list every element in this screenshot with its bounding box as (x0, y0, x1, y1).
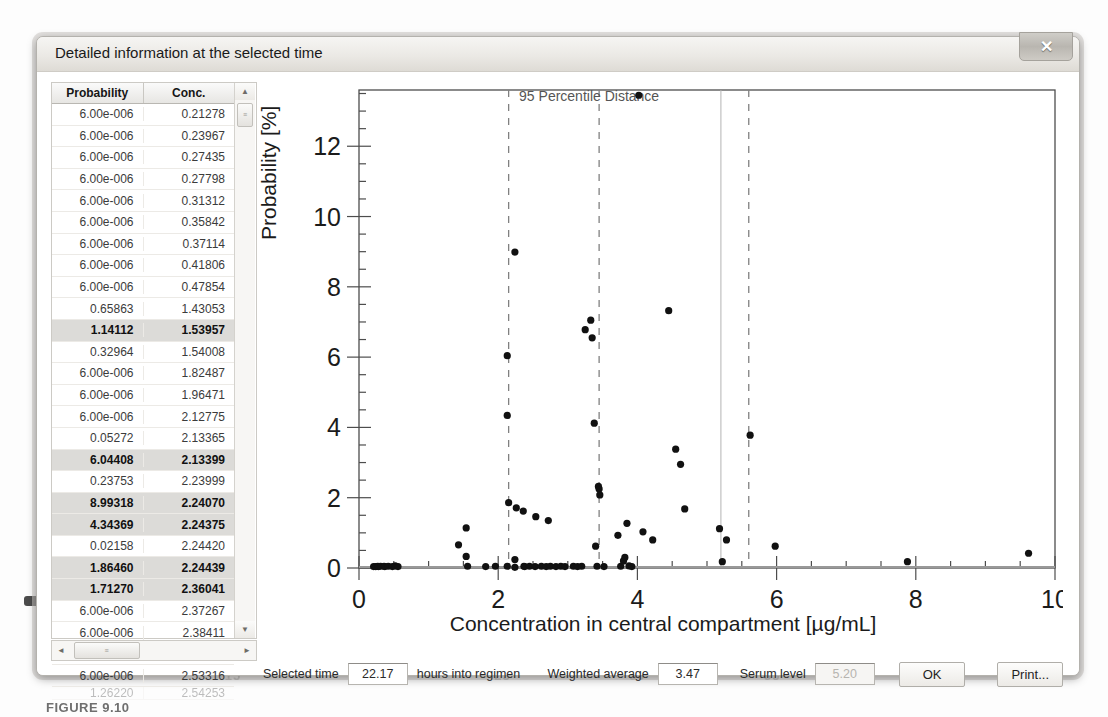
table-row[interactable]: 1.864602.24439 (52, 557, 234, 579)
cell-probability: 0.05272 (52, 431, 144, 445)
chart-plot-svg: 024681002468101295 Percentile Distance (263, 80, 1063, 610)
scatter-point (621, 554, 628, 561)
scroll-right-icon[interactable]: ► (238, 641, 256, 660)
cell-probability: 1.86460 (52, 561, 144, 575)
scatter-point (681, 505, 688, 512)
table-header-row: Probability Conc. (52, 83, 234, 104)
dialog-window: Detailed information at the selected tim… (36, 36, 1080, 676)
table-row[interactable]: 4.343692.24375 (52, 514, 234, 536)
cell-conc: 0.41806 (144, 258, 235, 272)
scatter-point (531, 563, 538, 570)
table-row[interactable]: 8.993182.24070 (52, 493, 234, 515)
table-row[interactable]: 6.00e-0061.82487 (52, 363, 234, 385)
cell-conc: 0.47854 (144, 280, 235, 294)
scatter-point (593, 563, 600, 570)
cell-conc: 0.27798 (144, 172, 235, 186)
svg-text:6: 6 (770, 585, 784, 610)
cell-probability: 4.34369 (52, 518, 144, 532)
table-row[interactable]: 6.00e-0060.27798 (52, 169, 234, 191)
table-row[interactable]: 0.052722.13365 (52, 428, 234, 450)
table-row[interactable]: 6.00e-0060.37114 (52, 234, 234, 256)
scatter-point (504, 352, 511, 359)
column-header-conc[interactable]: Conc. (144, 83, 235, 103)
table-row[interactable]: 0.021582.24420 (52, 536, 234, 558)
vertical-scroll-thumb[interactable]: ≡ (237, 103, 253, 127)
scatter-point (511, 564, 518, 571)
scatter-point (600, 563, 607, 570)
table-row[interactable]: 6.00e-0060.41806 (52, 255, 234, 277)
table-horizontal-scrollbar[interactable]: ◄ ≡ ► (51, 640, 257, 661)
table-row[interactable]: 1.262202.54253 (52, 687, 234, 700)
cell-conc: 2.23999 (144, 474, 235, 488)
column-header-probability[interactable]: Probability (52, 83, 144, 103)
table-row[interactable]: 1.141121.53957 (52, 320, 234, 342)
scatter-point (520, 507, 527, 514)
cell-conc: 2.12775 (144, 410, 235, 424)
scatter-point (561, 563, 568, 570)
table-row[interactable]: 6.00e-0060.21278 (52, 104, 234, 126)
table-row[interactable]: 1.712702.36041 (52, 579, 234, 601)
table-row[interactable]: 6.00e-0062.53316 (52, 665, 234, 687)
cell-probability: 6.00e-006 (52, 258, 144, 272)
selected-time-input[interactable]: 22.17 (348, 663, 408, 685)
chart-x-axis-label: Concentration in central compartment [µg… (263, 612, 1063, 636)
window-title: Detailed information at the selected tim… (55, 44, 323, 61)
table-row[interactable]: 6.00e-0060.23967 (52, 126, 234, 148)
table-vertical-scrollbar[interactable]: ▲ ≡ ▼ (234, 83, 255, 638)
scroll-left-icon[interactable]: ◄ (52, 641, 70, 660)
weighted-average-input[interactable]: 3.47 (658, 663, 718, 685)
cell-conc: 1.96471 (144, 388, 235, 402)
cell-probability: 6.00e-006 (52, 626, 144, 640)
cell-conc: 0.35842 (144, 215, 235, 229)
cell-probability: 0.65863 (52, 302, 144, 316)
table-grid: Probability Conc. 6.00e-0060.212786.00e-… (52, 83, 234, 638)
table-row[interactable]: 6.00e-0061.96471 (52, 385, 234, 407)
table-row[interactable]: 0.237532.23999 (52, 471, 234, 493)
table-row[interactable]: 6.00e-0062.12775 (52, 406, 234, 428)
scatter-point (532, 513, 539, 520)
scatter-point (504, 412, 511, 419)
svg-text:0: 0 (352, 585, 366, 610)
vertical-scroll-track[interactable] (235, 127, 255, 621)
cell-conc: 2.24375 (144, 518, 235, 532)
close-icon[interactable]: ✕ (1019, 32, 1073, 61)
table-row[interactable]: 6.00e-0060.47854 (52, 277, 234, 299)
cell-probability: 6.00e-006 (52, 194, 144, 208)
cell-probability: 6.00e-006 (52, 215, 144, 229)
cell-probability: 0.02158 (52, 539, 144, 553)
scatter-point (614, 532, 621, 539)
cell-probability: 6.00e-006 (52, 410, 144, 424)
screenshot-root: 10 15 20 25 30 35 40 45 FIGURE 9.10 Deta… (0, 0, 1108, 717)
cell-conc: 2.13365 (144, 431, 235, 445)
scatter-point (716, 525, 723, 532)
cell-probability: 0.32964 (52, 345, 144, 359)
serum-level-label: Serum level (740, 667, 806, 681)
print-button[interactable]: Print... (997, 662, 1063, 687)
table-row[interactable]: 6.00e-0062.37267 (52, 601, 234, 623)
cell-conc: 0.21278 (144, 107, 235, 121)
table-row[interactable]: 6.044082.13399 (52, 450, 234, 472)
background-figure-caption: FIGURE 9.10 (46, 700, 130, 715)
table-body: 6.00e-0060.212786.00e-0060.239676.00e-00… (52, 104, 234, 700)
cell-conc: 2.13399 (144, 453, 235, 467)
table-row[interactable]: 6.00e-0060.27435 (52, 147, 234, 169)
scroll-up-icon[interactable]: ▲ (235, 83, 255, 100)
table-row[interactable]: 6.00e-0060.31312 (52, 190, 234, 212)
scatter-point (463, 553, 470, 560)
scatter-point (394, 563, 401, 570)
svg-text:2: 2 (491, 585, 505, 610)
cell-conc: 0.37114 (144, 237, 235, 251)
cell-conc: 1.54008 (144, 345, 235, 359)
table-row[interactable]: 0.329641.54008 (52, 342, 234, 364)
scroll-down-icon[interactable]: ▼ (235, 621, 255, 638)
title-bar: Detailed information at the selected tim… (37, 37, 1079, 72)
cell-probability: 8.99318 (52, 496, 144, 510)
cell-probability: 0.23753 (52, 474, 144, 488)
cell-conc: 2.24070 (144, 496, 235, 510)
ok-button[interactable]: OK (899, 662, 965, 687)
table-row[interactable]: 6.00e-0060.35842 (52, 212, 234, 234)
horizontal-scroll-thumb[interactable]: ≡ (74, 642, 140, 659)
svg-text:8: 8 (909, 585, 923, 610)
table-row[interactable]: 0.658631.43053 (52, 298, 234, 320)
scatter-point (628, 563, 635, 570)
